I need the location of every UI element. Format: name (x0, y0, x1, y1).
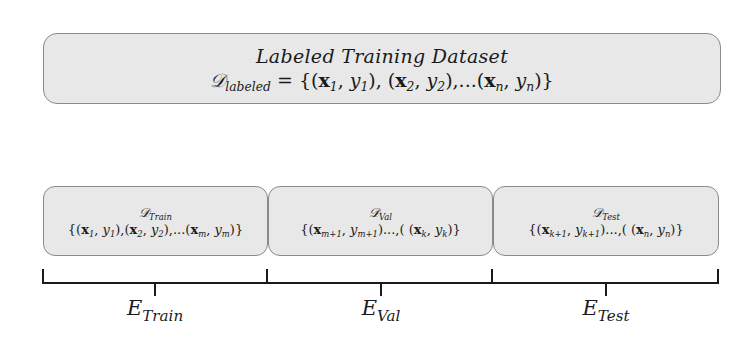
val-split-box: 𝒟Val {(xm+1, ym+1)...,( (xk, yk)} (268, 186, 493, 256)
train-split-set: {(x1, y1),(x2, y2),...(xm, ym)} (68, 221, 243, 239)
train-split-box: 𝒟Train {(x1, y1),(x2, y2),...(xm, ym)} (43, 186, 268, 256)
test-split-name: 𝒟Test (592, 204, 620, 221)
evaluation-label-test: ETest (582, 296, 629, 320)
val-split-set: {(xm+1, ym+1)...,( (xk, yk)} (300, 221, 461, 239)
test-split-box: 𝒟Test {(xk+1, yk+1)...,( (xn, yn)} (493, 186, 719, 256)
labeled-dataset-formula: 𝒟labeled = {(x1, y1), (x2, y2),...(xn, y… (210, 68, 553, 93)
train-split-name: 𝒟Train (139, 204, 172, 221)
labeled-dataset-box: Labeled Training Dataset 𝒟labeled = {(x1… (43, 33, 721, 104)
labeled-dataset-title: Labeled Training Dataset (256, 45, 508, 68)
evaluation-label-train: ETrain (127, 296, 183, 320)
test-split-set: {(xk+1, yk+1)...,( (xn, yn)} (528, 221, 683, 239)
evaluation-label-val: EVal (362, 296, 401, 320)
val-split-name: 𝒟Val (369, 204, 392, 221)
